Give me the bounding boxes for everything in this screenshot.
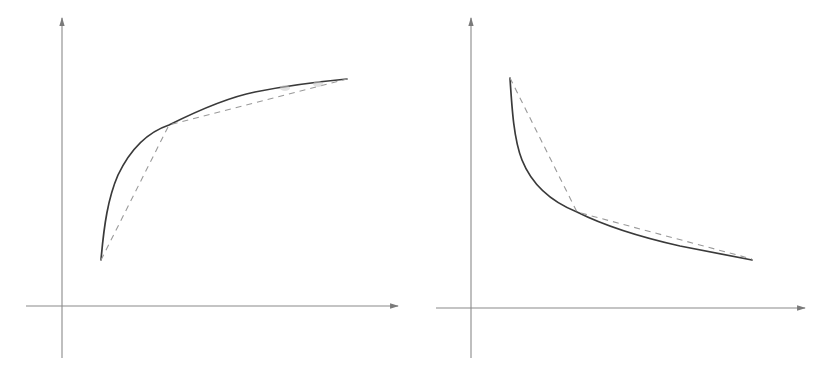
left-panel — [26, 18, 398, 358]
left-concave-curve — [101, 79, 347, 260]
diagram-canvas — [0, 0, 827, 374]
right-panel — [436, 18, 805, 358]
scan-smudge — [280, 85, 290, 91]
scan-smudge — [313, 81, 323, 87]
left-dashed-chord — [101, 79, 347, 260]
right-convex-curve — [510, 78, 752, 260]
right-dashed-chord — [510, 78, 752, 259]
